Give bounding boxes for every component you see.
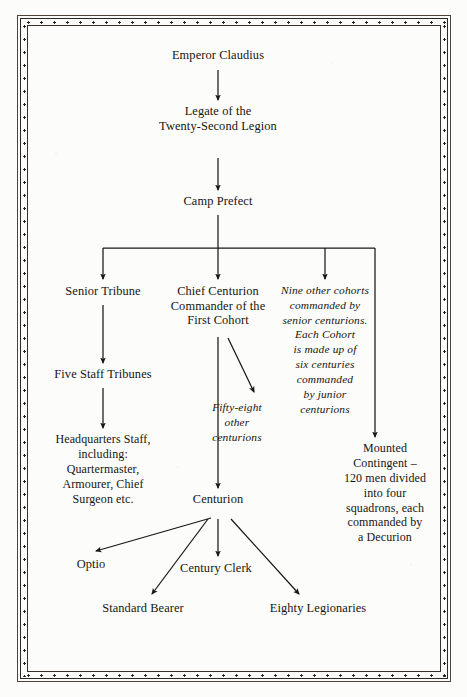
- node-eighty-legionaries: Eighty Legionaries: [270, 601, 366, 616]
- node-chief-centurion: Chief Centurion Commander of the First C…: [171, 284, 266, 328]
- node-centurion: Centurion: [193, 492, 243, 507]
- node-five-staff-tribunes: Five Staff Tribunes: [54, 367, 151, 382]
- node-nine-other-cohorts: Nine other cohorts commanded by senior c…: [270, 283, 380, 416]
- node-emperor-claudius: Emperor Claudius: [172, 48, 264, 63]
- node-headquarters-staff: Headquarters Staff, including: Quarterma…: [37, 432, 169, 506]
- node-legate: Legate of the Twenty-Second Legion: [159, 104, 277, 133]
- node-century-clerk: Century Clerk: [180, 561, 252, 576]
- node-fifty-eight-other-centurions: Fifty-eight other centurions: [191, 400, 283, 444]
- legion-hierarchy-diagram: Emperor Claudius Legate of the Twenty-Se…: [0, 0, 467, 697]
- node-optio: Optio: [77, 557, 106, 572]
- node-mounted-contingent: Mounted Contingent – 120 men divided int…: [324, 441, 446, 545]
- node-standard-bearer: Standard Bearer: [102, 601, 184, 616]
- node-senior-tribune: Senior Tribune: [65, 284, 140, 299]
- node-camp-prefect: Camp Prefect: [184, 194, 253, 209]
